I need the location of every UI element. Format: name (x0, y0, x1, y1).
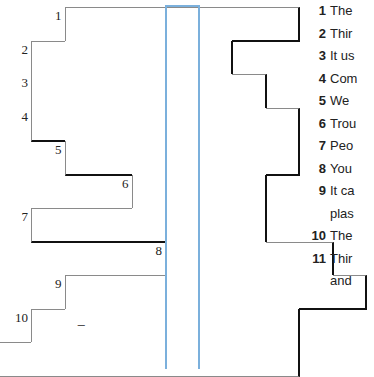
clue-text: It us (330, 48, 355, 63)
grid-cell[interactable] (165, 208, 200, 243)
grid-cell[interactable] (165, 342, 200, 377)
clue-item: 5We (311, 90, 374, 113)
grid-cell[interactable] (132, 275, 167, 310)
grid-cell[interactable] (199, 41, 234, 76)
grid-cell[interactable] (199, 275, 234, 310)
clue-list: 1The2Thir3It us4Com5We6Trou7Peo8You9It c… (311, 0, 374, 293)
grid-cell[interactable] (232, 309, 267, 344)
grid-cell[interactable] (199, 7, 234, 42)
clue-number: 6 (311, 113, 326, 136)
grid-cell[interactable] (65, 141, 100, 176)
grid-cell[interactable] (199, 309, 234, 344)
grid-cell[interactable] (98, 41, 133, 76)
clue-text: The (330, 3, 352, 18)
grid-cell[interactable] (266, 342, 301, 377)
grid-cell[interactable] (165, 108, 200, 143)
grid-cell[interactable] (165, 242, 200, 277)
grid-cell[interactable] (232, 275, 267, 310)
clue-item: 4Com (311, 68, 374, 91)
clue-text: plas (330, 206, 354, 221)
grid-cell[interactable] (165, 309, 200, 344)
grid-cell[interactable] (132, 41, 167, 76)
grid-cell[interactable] (31, 41, 66, 76)
grid-cell[interactable] (199, 175, 234, 210)
grid-cell[interactable] (266, 275, 301, 310)
grid-cell[interactable] (65, 74, 100, 109)
cell-letter: – (78, 317, 85, 333)
grid-cell[interactable] (266, 108, 301, 143)
clue-item: 10The (311, 225, 374, 248)
grid-cell[interactable] (65, 41, 100, 76)
grid-cell[interactable] (232, 208, 267, 243)
grid-cell[interactable] (199, 74, 234, 109)
grid-cell[interactable] (165, 74, 200, 109)
grid-cell[interactable] (232, 141, 267, 176)
grid-cell[interactable] (65, 108, 100, 143)
row-number-label: 9 (40, 276, 62, 292)
grid-cell[interactable] (31, 309, 66, 344)
grid-cell[interactable] (31, 208, 66, 243)
grid-cell[interactable] (199, 242, 234, 277)
grid-cell[interactable] (132, 141, 167, 176)
grid-cell[interactable] (232, 74, 267, 109)
grid-cell[interactable] (98, 108, 133, 143)
grid-cell[interactable] (98, 7, 133, 42)
clue-item: 6Trou (311, 113, 374, 136)
grid-cell[interactable] (199, 108, 234, 143)
row-number-label: 6 (107, 176, 129, 192)
clue-text: It ca (330, 183, 355, 198)
grid-cell[interactable] (65, 7, 100, 42)
grid-cell[interactable] (65, 208, 100, 243)
grid-cell[interactable] (98, 208, 133, 243)
clue-text: Peo (330, 138, 353, 153)
clue-item: 9It ca (311, 180, 374, 203)
grid-cell[interactable] (31, 342, 66, 377)
grid-cell[interactable]: – (65, 309, 100, 344)
grid-cell[interactable] (199, 342, 234, 377)
clue-number: 7 (311, 135, 326, 158)
grid-cell[interactable] (0, 342, 32, 377)
clue-item: 7Peo (311, 135, 374, 158)
grid-cell[interactable] (132, 309, 167, 344)
grid-cell[interactable] (132, 108, 167, 143)
row-number-label: 2 (6, 42, 28, 58)
grid-cell[interactable] (98, 309, 133, 344)
grid-cell[interactable] (266, 242, 301, 277)
grid-cell[interactable] (266, 7, 301, 42)
clue-item: 8You (311, 158, 374, 181)
clue-number: 8 (311, 158, 326, 181)
grid-cell[interactable] (165, 41, 200, 76)
grid-cell[interactable] (165, 175, 200, 210)
clue-item: 11Thir (311, 248, 374, 271)
grid-cell[interactable] (98, 74, 133, 109)
grid-cell[interactable] (132, 7, 167, 42)
grid-cell[interactable] (266, 141, 301, 176)
grid-cell[interactable] (98, 141, 133, 176)
clue-number: 9 (311, 180, 326, 203)
grid-cell[interactable] (132, 208, 167, 243)
grid-cell[interactable] (232, 342, 267, 377)
grid-cell[interactable] (98, 342, 133, 377)
grid-cell[interactable] (199, 208, 234, 243)
grid-cell[interactable] (165, 7, 200, 42)
grid-cell[interactable] (232, 242, 267, 277)
grid-cell[interactable] (31, 74, 66, 109)
row-number-label: 5 (40, 142, 62, 158)
grid-cell[interactable] (65, 342, 100, 377)
grid-cell[interactable] (266, 309, 301, 344)
grid-cell[interactable] (232, 7, 267, 42)
grid-cell[interactable] (132, 342, 167, 377)
grid-cell[interactable] (132, 175, 167, 210)
grid-cell[interactable] (232, 108, 267, 143)
row-number-label: 3 (6, 75, 28, 91)
grid-cell[interactable] (132, 74, 167, 109)
clue-text: Thir (330, 251, 352, 266)
grid-cell[interactable] (65, 275, 100, 310)
grid-cell[interactable] (165, 141, 200, 176)
grid-cell[interactable] (232, 175, 267, 210)
grid-cell[interactable] (165, 275, 200, 310)
grid-cell[interactable] (31, 108, 66, 143)
clue-text: You (330, 161, 352, 176)
grid-cell[interactable] (98, 275, 133, 310)
grid-cell[interactable] (199, 141, 234, 176)
